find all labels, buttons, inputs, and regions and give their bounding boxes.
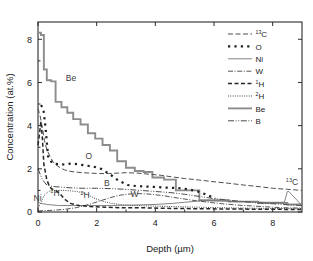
y-tick-label: 6 bbox=[27, 78, 32, 88]
x-tick-label: 4 bbox=[153, 218, 158, 228]
chart-figure: BeOBNi1H2HW13C 0246802468Depth (µm)Conce… bbox=[0, 0, 313, 261]
legend-item-be[interactable]: Be bbox=[228, 105, 266, 114]
annotation-ni: Ni bbox=[34, 193, 42, 203]
annotation-1h-base: H bbox=[53, 188, 59, 198]
annotation-w: W bbox=[130, 189, 138, 199]
x-tick-label: 6 bbox=[211, 218, 216, 228]
annotation-13c: 13C bbox=[286, 177, 298, 187]
legend-base: C bbox=[261, 30, 267, 39]
y-axis-title: Concentration (at.%) bbox=[4, 73, 15, 160]
annotation-o: O bbox=[86, 151, 93, 161]
annotation-2h: 2H bbox=[81, 190, 90, 200]
legend-item-ni[interactable]: Ni bbox=[228, 55, 263, 64]
legend-label-w: W bbox=[256, 67, 264, 76]
y-tick-label: 4 bbox=[27, 121, 32, 131]
legend-label-13c: 13C bbox=[256, 29, 268, 39]
legend-item-o[interactable]: O bbox=[228, 43, 262, 52]
legend-base: H bbox=[258, 92, 264, 101]
legend-item-w[interactable]: W bbox=[228, 67, 264, 76]
plot-frame bbox=[38, 22, 302, 212]
legend-item-2h[interactable]: 2H bbox=[228, 91, 264, 101]
legend-layer[interactable]: 13CONiW1H2HBeB bbox=[228, 29, 267, 126]
y-tick-label: 0 bbox=[27, 207, 32, 217]
legend-label-be: Be bbox=[256, 105, 266, 114]
legend-label-o: O bbox=[256, 43, 262, 52]
legend-label-2h: 2H bbox=[256, 91, 265, 101]
series-line-o bbox=[41, 105, 216, 198]
x-axis-title: Depth (µm) bbox=[146, 243, 194, 254]
legend-item-b[interactable]: B bbox=[228, 117, 261, 126]
depth-profile-chart: BeOBNi1H2HW13C 0246802468Depth (µm)Conce… bbox=[0, 0, 313, 261]
legend-label-ni: Ni bbox=[256, 55, 264, 64]
y-tick-label: 8 bbox=[27, 35, 32, 45]
annotation-b: B bbox=[104, 178, 110, 188]
legend-label-b: B bbox=[256, 117, 261, 126]
annotation-13c-base: C bbox=[292, 177, 298, 187]
legend-item-1h[interactable]: 1H bbox=[228, 79, 264, 89]
series-line-b bbox=[38, 169, 302, 206]
legend-base: H bbox=[258, 80, 264, 89]
series-line-1h bbox=[38, 121, 302, 209]
y-tick-label: 2 bbox=[27, 164, 32, 174]
legend-item-13c[interactable]: 13C bbox=[228, 29, 267, 39]
legend-label-1h: 1H bbox=[256, 79, 265, 89]
x-tick-label: 8 bbox=[270, 218, 275, 228]
annotation-be: Be bbox=[66, 73, 77, 83]
plot-border bbox=[38, 22, 302, 212]
series-line-2h bbox=[38, 190, 302, 208]
annotation-2h-base: H bbox=[84, 190, 90, 200]
annotation-1h: 1H bbox=[50, 188, 59, 198]
x-tick-label: 0 bbox=[35, 218, 40, 228]
x-tick-label: 2 bbox=[94, 218, 99, 228]
series-line-13c bbox=[38, 108, 302, 190]
